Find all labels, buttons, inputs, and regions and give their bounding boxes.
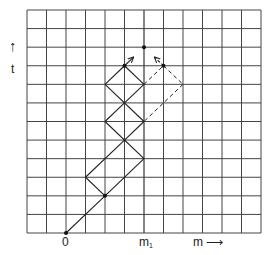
dashed-path-segment [164, 66, 184, 85]
t-axis-arrow: ↑ [9, 40, 17, 52]
solid-path-segment [125, 122, 145, 141]
dashed-path-segment [144, 66, 164, 85]
solid-path-segment [86, 177, 106, 196]
m-axis-label: m ⟶ [193, 236, 223, 248]
path-dot [123, 64, 127, 68]
m-axis-label-text: m [193, 235, 203, 249]
m1-label-main: m [139, 235, 149, 249]
t-axis-label: t [11, 63, 14, 75]
m1-label-subscript: 1 [149, 242, 153, 249]
path-dot [142, 45, 146, 49]
lattice-diagram [0, 0, 273, 255]
m1-label: m1 [139, 236, 153, 252]
solid-path-segment [125, 84, 145, 103]
solid-path-segment [105, 66, 125, 85]
solid-path-segment [105, 103, 125, 122]
origin-label: 0 [62, 236, 69, 248]
path-dot [103, 194, 107, 198]
m-axis-arrow: ⟶ [206, 235, 223, 249]
solid-path-segment [125, 66, 145, 85]
path-dot [162, 64, 166, 68]
